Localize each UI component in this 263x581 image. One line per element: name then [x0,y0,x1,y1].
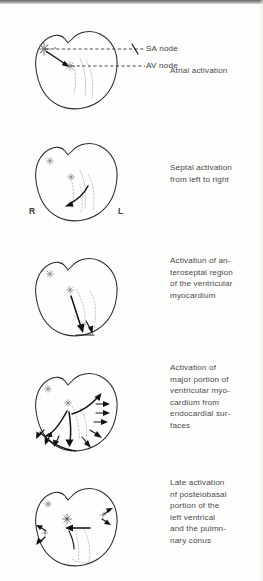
caption-line: major portion of [170,374,262,386]
figure-page: SA node AV node Atrial activation [0,0,263,581]
caption-line: teroseptal region [170,267,262,279]
caption-line: from left to right [170,174,262,186]
heart-diagram-4 [14,356,164,461]
caption-line: left ventrical [170,512,262,524]
panel-septal-activation: R L Septal activation from left to right [0,126,263,226]
caption-panel-4: Activation of major portion of ventricul… [170,362,262,432]
panel-late-activation: Late activation nf posteiobasal portion … [0,471,263,576]
caption-panel-2: Septal activation from left to right [170,162,262,185]
left-side-label: L [118,206,123,216]
caption-line: Late activation [170,477,262,489]
caption-line: portion of the [170,500,262,512]
caption-line: nary conus [170,535,262,547]
caption-line: and the pulmn- [170,523,262,535]
heart-diagram-1 [14,14,164,114]
scan-edge-top [0,0,263,4]
caption-line: Activatiun of an- [170,255,262,267]
caption-line: Activation of [170,362,262,374]
caption-line: of the ventricular [170,278,262,290]
caption-line: faces [170,420,262,432]
caption-line: cardium from [170,397,262,409]
heart-diagram-2 [14,126,164,226]
caption-line: Septal activation [170,162,262,174]
sa-node-label: SA node [146,44,178,53]
heart-diagram-5 [14,471,164,576]
caption-line: nf posteiobasal [170,489,262,501]
panel-anteroseptal-activation: Activatiun of an- teroseptal region of t… [0,241,263,344]
caption-line: Atrial activation [170,65,262,77]
caption-panel-3: Activatiun of an- teroseptal region of t… [170,255,262,301]
panel-major-portion-activation: Activation of major portion of ventricul… [0,356,263,461]
caption-line: endocardial sur- [170,408,262,420]
heart-diagram-3 [14,241,164,344]
caption-panel-5: Late activation nf posteiobasal portion … [170,477,262,547]
caption-panel-1: Atrial activation [170,65,262,77]
right-side-label: R [29,206,35,216]
caption-line: ventricular myo- [170,385,262,397]
panel-atrial-activation: SA node AV node Atrial activation [0,14,263,114]
caption-line: myocardium [170,290,262,302]
